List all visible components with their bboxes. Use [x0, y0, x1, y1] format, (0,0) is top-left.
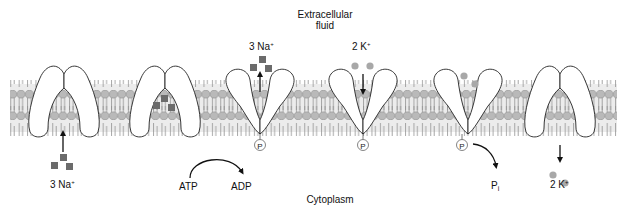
pi-subscript: i	[498, 185, 500, 192]
atp-label: ATP	[179, 181, 198, 192]
cytoplasm-label: Cytoplasm	[306, 194, 353, 205]
charge-superscript: +	[367, 41, 371, 47]
phosphate-label: P	[360, 142, 365, 151]
phosphate-release-arrow	[473, 144, 496, 166]
charge-superscript: +	[270, 41, 274, 47]
potassium-ions-approaching	[351, 62, 373, 69]
pi-base: P	[491, 180, 498, 191]
extracellular-label: Extracellular fluid	[297, 9, 352, 31]
potassium-cytoplasm-label: 2 K+	[550, 179, 569, 190]
sodium-released-label: 3 Na+	[249, 41, 274, 52]
potassium-incoming-text: 2 K	[352, 41, 367, 52]
potassium-cytoplasm-text: 2 K	[550, 179, 565, 190]
sodium-ions-released	[250, 56, 272, 72]
charge-superscript: +	[71, 179, 75, 185]
phosphate-label: P	[257, 142, 262, 151]
atp-hydrolysis-arrow	[190, 160, 242, 178]
diagram-canvas: P P P	[0, 0, 626, 212]
sodium-released-text: 3 Na	[249, 41, 270, 52]
extracellular-label-line2: fluid	[297, 20, 352, 31]
adp-label: ADP	[231, 181, 252, 192]
potassium-incoming-label: 2 K+	[352, 41, 371, 52]
sodium-cytoplasm-label: 3 Na+	[50, 179, 75, 190]
phosphate-label: P	[459, 142, 464, 151]
sodium-cytoplasm-text: 3 Na	[50, 179, 71, 190]
charge-superscript: +	[565, 179, 569, 185]
sodium-ions-cytoplasm	[51, 133, 73, 170]
inorganic-phosphate-label: Pi	[491, 180, 499, 191]
extracellular-label-line1: Extracellular	[297, 9, 352, 20]
sodium-potassium-pump-diagram: P P P	[0, 0, 626, 212]
